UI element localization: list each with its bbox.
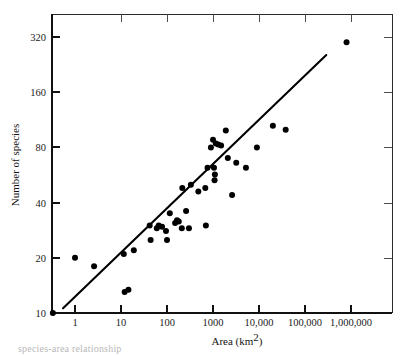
caption-fragment: species-area relationship	[18, 343, 122, 354]
data-point	[147, 223, 153, 229]
data-point	[208, 144, 214, 150]
x-axis-ticks-mirror	[121, 14, 351, 22]
data-point	[203, 223, 209, 229]
y-tick-label-10: 10	[36, 308, 47, 319]
x-tick-label-1000: 1000	[203, 317, 224, 328]
data-point	[243, 165, 249, 171]
data-point	[229, 192, 235, 198]
data-point	[131, 247, 137, 253]
data-point	[212, 177, 218, 183]
data-point	[202, 185, 208, 191]
data-point	[195, 188, 201, 194]
x-tick-label-10: 10	[116, 317, 127, 328]
y-axis-ticks: 10 20 40 80 160 320	[30, 32, 60, 319]
x-tick-label-1: 1	[72, 317, 77, 328]
x-tick-label-1000000: 1,000,000	[330, 317, 372, 328]
data-point	[164, 237, 170, 243]
y-tick-label-20: 20	[36, 253, 47, 264]
data-point	[283, 127, 289, 133]
data-point	[50, 310, 56, 316]
y-axis-ticks-mirror	[384, 37, 392, 258]
y-tick-label-40: 40	[36, 198, 47, 209]
data-point	[218, 142, 224, 148]
data-point	[121, 251, 127, 257]
page-caption-strip: species-area relationship	[0, 342, 402, 356]
data-point	[125, 287, 131, 293]
data-point	[225, 155, 231, 161]
x-axis-ticks: 1 10 100 1000 10,000 100,000 1,000,000	[72, 305, 372, 328]
y-tick-label-80: 80	[36, 142, 47, 153]
data-point	[211, 165, 217, 171]
data-point	[205, 165, 211, 171]
y-axis-title: Number of species	[9, 124, 21, 206]
data-point	[270, 123, 276, 129]
data-point	[233, 160, 239, 166]
data-point	[186, 225, 192, 231]
x-tick-label-10000: 10,000	[245, 317, 274, 328]
x-tick-label-100000: 100,000	[288, 317, 322, 328]
x-tick-label-100: 100	[159, 317, 175, 328]
data-point	[167, 210, 173, 216]
y-tick-label-160: 160	[30, 87, 46, 98]
data-point	[254, 144, 260, 150]
y-tick-label-320: 320	[30, 32, 46, 43]
plot-frame	[52, 14, 392, 313]
data-point	[188, 182, 194, 188]
regression-fit-line	[63, 55, 326, 308]
data-point	[176, 219, 182, 225]
data-point	[72, 255, 78, 261]
figure-container: 10 20 40 80 160 320 1 10 100	[0, 0, 402, 356]
data-point	[163, 228, 169, 234]
species-area-chart: 10 20 40 80 160 320 1 10 100	[0, 0, 402, 356]
data-point	[91, 263, 97, 269]
data-point	[223, 127, 229, 133]
data-point	[344, 39, 350, 45]
data-point	[179, 225, 185, 231]
data-point	[179, 185, 185, 191]
data-point	[212, 171, 218, 177]
data-point	[183, 208, 189, 214]
data-point	[148, 237, 154, 243]
